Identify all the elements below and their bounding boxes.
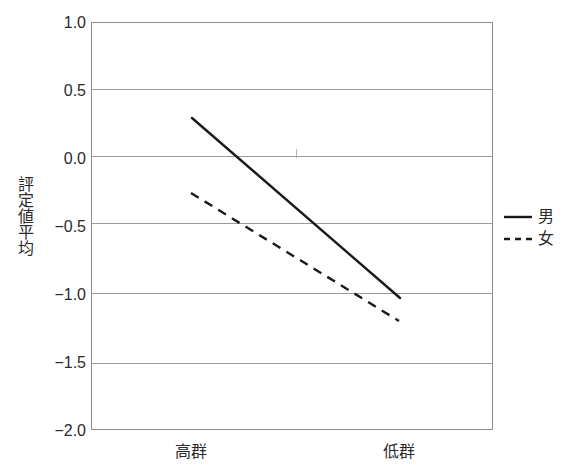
legend: 男 女 <box>503 206 569 250</box>
legend-label-female: 女 <box>538 231 554 247</box>
series-lines <box>92 23 494 431</box>
plot-area <box>91 22 493 430</box>
line-chart-figure: 評定値平均 1.0 0.5 0.0 −0.5 −1.0 −1.5 −2.0 高群… <box>0 0 574 474</box>
series-line-male <box>192 118 400 298</box>
legend-item-female: 女 <box>503 228 569 250</box>
y-tick-label: −1.5 <box>30 355 86 371</box>
legend-label-male: 男 <box>538 209 554 225</box>
series-line-female <box>191 193 399 321</box>
y-tick-label: 1.0 <box>30 15 86 31</box>
y-tick-label: 0.5 <box>30 83 86 99</box>
y-tick-label: 0.0 <box>30 151 86 167</box>
x-tick-label-low-group: 低群 <box>339 443 459 461</box>
x-tick-label-high-group: 高群 <box>131 443 251 461</box>
y-tick-label: −2.0 <box>30 423 86 439</box>
y-axis-tick-labels: 1.0 0.5 0.0 −0.5 −1.0 −1.5 −2.0 <box>26 0 86 474</box>
legend-solid-line-icon <box>503 211 533 223</box>
legend-item-male: 男 <box>503 206 569 228</box>
y-tick-label: −1.0 <box>30 287 86 303</box>
y-tick-label: −0.5 <box>30 219 86 235</box>
legend-dashed-line-icon <box>503 233 533 245</box>
